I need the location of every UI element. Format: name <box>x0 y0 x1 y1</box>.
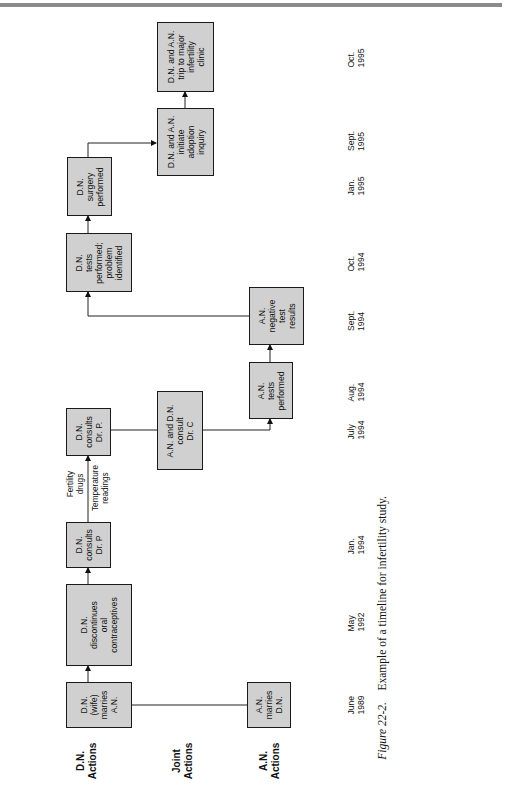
date-oct-1995: Oct. 1995 <box>346 48 366 67</box>
date-oct-1994: Oct. 1994 <box>346 252 366 271</box>
date-sept-1995: Sept. 1995 <box>346 131 366 151</box>
note-temperature-readings: Temperature readings <box>91 465 111 511</box>
date-aug-1994: Aug. 1994 <box>346 382 366 401</box>
date-sept-1994: Sept. 1994 <box>346 311 366 331</box>
event-text: D.N. tests performed; problem identified <box>74 242 124 284</box>
event-text: D.N. discontinues oral contraceptives <box>79 597 119 652</box>
row-label-joint-actions: Joint Actions <box>171 743 195 780</box>
event-box-joint-adoption: D.N. and A.N. initiate adoption inquiry <box>157 108 214 176</box>
event-text: A.N. tests performed <box>256 371 286 410</box>
event-box-dn-consults-p-july: D.N. consults Dr. P. <box>66 408 111 456</box>
date-jan-1994: Jan. 1994 <box>346 535 366 554</box>
event-text: D.N. surgery performed <box>75 167 105 206</box>
note-fertility-drugs: Fertility drugs <box>66 471 86 497</box>
event-text: D.N. (wife) marries A.N. <box>79 691 119 720</box>
caption-text: Example of a timeline for infertility st… <box>376 496 388 690</box>
event-text: D.N. and A.N. initiate adoption inquiry <box>166 116 206 169</box>
figure-caption: Figure 22-2. Example of a timeline for i… <box>376 496 388 760</box>
event-box-an-negative: A.N. negative test results <box>249 287 304 345</box>
event-box-dn-tests-problem: D.N. tests performed; problem identified <box>66 233 132 292</box>
date-june-1989: June 1989 <box>346 695 366 714</box>
date-jan-1995: Jan. 1995 <box>346 176 366 195</box>
event-box-an-marries: A.N. marries D.N. <box>247 682 291 728</box>
event-box-dn-consults-p-1994: D.N. consults Dr. P <box>66 522 111 568</box>
row-label-dn-actions: D.N. Actions <box>75 743 99 780</box>
date-july-1994: July 1994 <box>346 420 366 439</box>
date-may-1992: May 1992 <box>346 612 366 631</box>
event-box-joint-trip: D.N. and A.N. trip to major infertility … <box>157 22 214 92</box>
event-text: A.N. and D.N. consult Dr. C <box>165 404 195 457</box>
row-label-an-actions: A.N. Actions <box>258 743 282 780</box>
event-box-joint-consult-c: A.N. and D.N. consult Dr. C <box>157 391 203 470</box>
event-box-dn-marries: D.N. (wife) marries A.N. <box>66 682 132 728</box>
event-text: D.N. consults Dr. P <box>74 529 104 561</box>
event-box-dn-discontinues: D.N. discontinues oral contraceptives <box>66 584 132 666</box>
event-box-an-tests: A.N. tests performed <box>249 362 293 419</box>
event-text: A.N. negative test results <box>257 300 297 333</box>
event-text: A.N. marries D.N. <box>254 691 284 720</box>
event-box-dn-surgery: D.N. surgery performed <box>67 157 112 216</box>
caption-label: Figure 22-2. <box>376 702 388 760</box>
event-text: D.N. consults Dr. P. <box>74 416 104 448</box>
event-text: D.N. and A.N. trip to major infertility … <box>166 31 206 84</box>
